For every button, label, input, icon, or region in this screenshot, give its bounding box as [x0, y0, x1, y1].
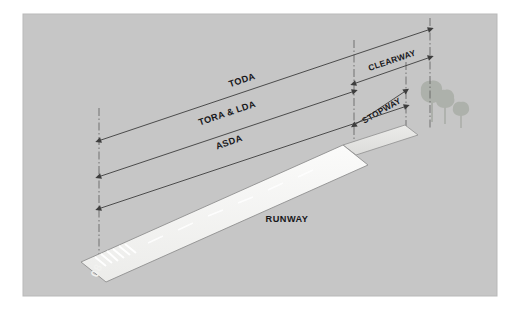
label-runway: RUNWAY — [266, 214, 309, 224]
figure-root: TODA CLEARWAY TORA & LDA STOPWAY ASDA — [0, 0, 529, 314]
runway-declared-distances-diagram: TODA CLEARWAY TORA & LDA STOPWAY ASDA — [0, 0, 529, 314]
